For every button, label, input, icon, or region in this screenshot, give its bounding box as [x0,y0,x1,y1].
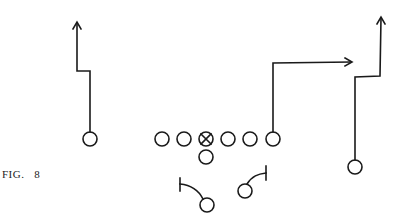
tight-end-route-group [273,58,352,132]
tight-end-route [273,62,351,132]
left-back-circle [200,198,214,212]
right-back-circle [238,184,252,198]
tight-end [266,132,280,146]
right-receiver-route [355,18,381,160]
left-back-block-path [180,184,203,199]
right-receiver-circle [348,160,362,174]
figure-caption: FIG. 8 [2,168,40,180]
lineman-1 [155,132,169,146]
left-receiver [73,22,97,146]
football-play-diagram [0,0,408,222]
lineman-4 [221,132,235,146]
right-back [238,166,266,198]
quarterback [199,150,213,164]
offensive-line [155,132,280,146]
left-back [180,178,214,212]
right-back-block-path [247,173,266,184]
left-receiver-circle [83,132,97,146]
lineman-5 [243,132,257,146]
right-receiver [348,17,385,174]
left-receiver-route [77,23,90,132]
center-x-icon [199,132,213,146]
lineman-2 [177,132,191,146]
